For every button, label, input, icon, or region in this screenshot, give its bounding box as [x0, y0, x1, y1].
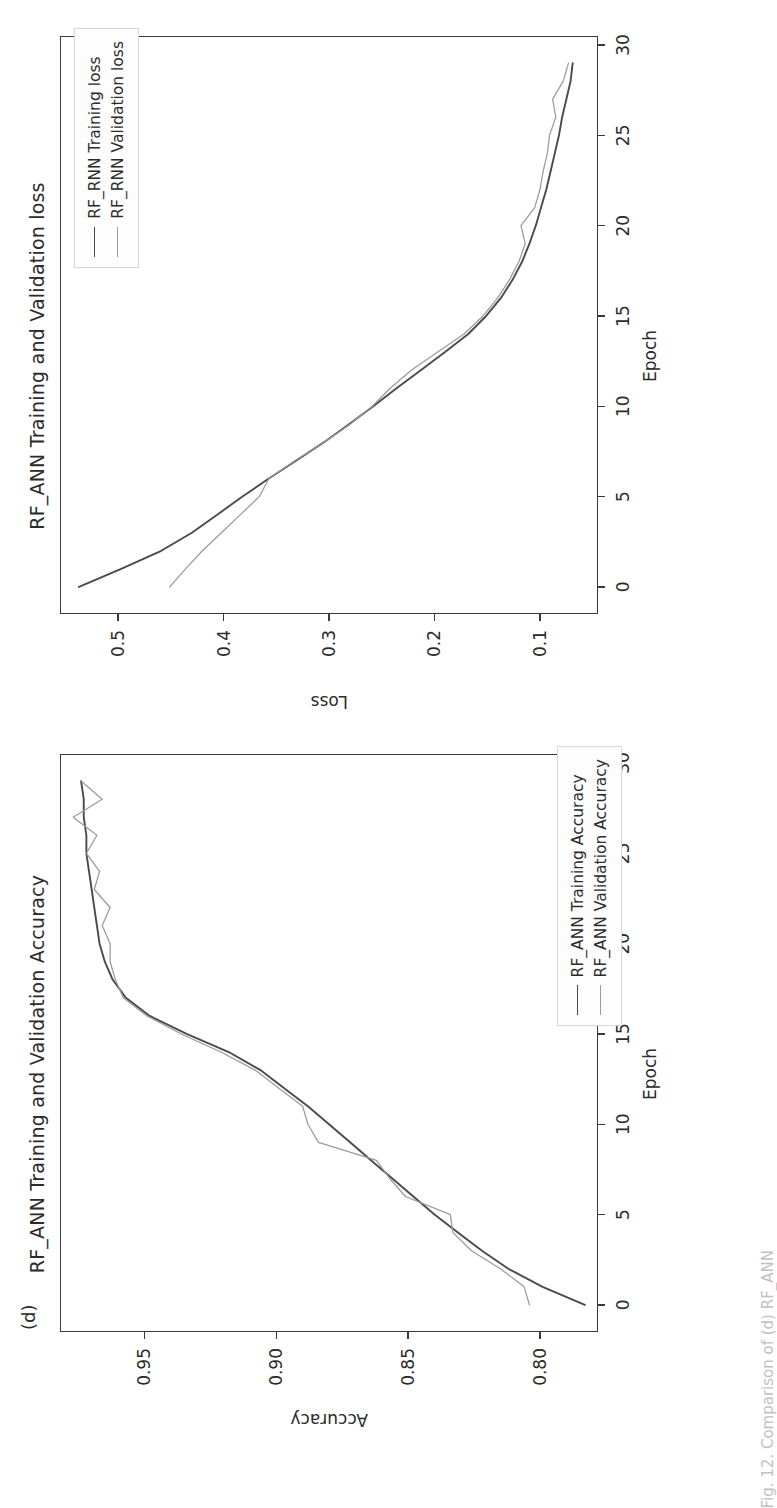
loss-yaxis-title: Loss [60, 692, 598, 712]
legend-label: RF_ANN Training Accuracy [569, 774, 587, 977]
loss-chart-title: RF_ANN Training and Validation loss [26, 6, 48, 706]
caption-fragment: Fig. 12. Comparison of (d) RF_ANN [759, 1250, 777, 1508]
x-tick-label: 30 [604, 34, 633, 56]
accuracy-plot-area [60, 754, 598, 1332]
y-tick-mark [117, 614, 118, 621]
x-tick-label: 0 [604, 1299, 633, 1310]
loss-xaxis-title: Epoch [640, 6, 660, 706]
accuracy-legend: RF_ANN Training AccuracyRF_ANN Validatio… [557, 746, 622, 1026]
x-tick-label: 5 [604, 491, 633, 502]
legend-line-swatch [600, 985, 601, 1015]
x-tick-label: 25 [604, 125, 633, 147]
legend-line-swatch [577, 985, 578, 1015]
x-tick-label: 10 [604, 1113, 633, 1135]
legend-item[interactable]: RF_RNN Validation loss [106, 41, 129, 257]
loss-plot-area [60, 36, 598, 614]
y-tick-label: 0.95 [134, 1339, 154, 1386]
y-tick-mark [223, 614, 224, 621]
legend-line-swatch [94, 227, 95, 257]
loss-chart-panel: RF_ANN Training and Validation loss 0510… [18, 6, 736, 706]
subfigure-letter: (d) [18, 1305, 39, 1330]
legend-item[interactable]: RF_ANN Validation Accuracy [589, 759, 612, 1015]
x-tick-label: 0 [604, 581, 633, 592]
y-tick-label: 0.4 [214, 621, 234, 657]
y-tick-mark [539, 1332, 540, 1339]
y-tick-label: 0.85 [398, 1339, 418, 1386]
y-tick-mark [144, 1332, 145, 1339]
legend-label: RF_RNN Validation loss [109, 41, 127, 219]
x-tick-label: 15 [604, 1023, 633, 1045]
x-tick-label: 15 [604, 305, 633, 327]
legend-label: RF_ANN Validation Accuracy [592, 759, 610, 977]
legend-item[interactable]: RF_RNN Training loss [83, 41, 106, 257]
accuracy-series-canvas [60, 754, 598, 1332]
accuracy-chart-panel: RF_ANN Training and Validation Accuracy … [18, 724, 718, 1424]
series-line [81, 781, 585, 1305]
x-tick-label: 10 [604, 395, 633, 417]
legend-label: RF_RNN Training loss [86, 56, 104, 218]
y-tick-label: 0.90 [266, 1339, 286, 1386]
y-tick-label: 0.5 [108, 621, 128, 657]
loss-series-canvas [60, 36, 598, 614]
x-tick-label: 20 [604, 215, 633, 237]
y-tick-mark [434, 614, 435, 621]
series-line [170, 63, 569, 587]
y-tick-label: 0.80 [530, 1339, 550, 1386]
y-tick-mark [407, 1332, 408, 1339]
y-tick-mark [539, 614, 540, 621]
y-tick-mark [328, 614, 329, 621]
y-tick-mark [276, 1332, 277, 1339]
legend-item[interactable]: RF_ANN Training Accuracy [566, 759, 589, 1015]
series-line [73, 781, 529, 1305]
loss-legend: RF_RNN Training lossRF_RNN Validation lo… [74, 28, 139, 268]
y-tick-label: 0.2 [424, 621, 444, 657]
series-line [79, 63, 573, 587]
legend-line-swatch [117, 227, 118, 257]
y-tick-label: 0.1 [530, 621, 550, 657]
accuracy-yaxis-title: Accuracy [60, 1410, 598, 1430]
accuracy-xaxis-title: Epoch [640, 724, 660, 1424]
y-tick-label: 0.3 [319, 621, 339, 657]
x-tick-label: 5 [604, 1209, 633, 1220]
